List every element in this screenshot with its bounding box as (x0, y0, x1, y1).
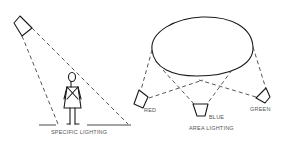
specific-lighting-panel: SPECIFIC LIGHTING (14, 16, 131, 135)
red-light-label: RED (144, 107, 156, 113)
specific-lighting-caption: SPECIFIC LIGHTING (51, 129, 107, 135)
female-figure-icon (64, 73, 81, 125)
area-lighting-panel: RED BLUE GREEN AREA LIGHTING (134, 17, 271, 131)
lighting-diagram: SPECIFIC LIGHTING RED BLUE GREEN (0, 0, 285, 160)
blue-light-icon (193, 104, 208, 116)
lit-area-ellipse (152, 17, 253, 76)
red-light-icon (134, 90, 148, 108)
spotlight-icon (14, 16, 32, 36)
blue-light-label: BLUE (209, 114, 224, 120)
area-lighting-caption: AREA LIGHTING (189, 125, 234, 131)
green-light-label: GREEN (250, 106, 271, 112)
green-light-icon (256, 88, 270, 103)
